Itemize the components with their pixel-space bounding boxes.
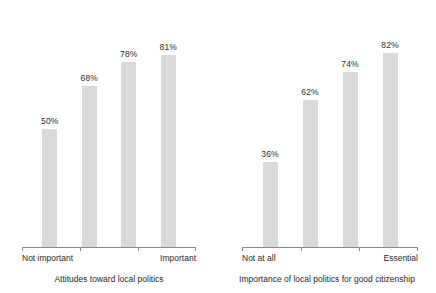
- importance-axis-title: Importance of local politics for good ci…: [218, 274, 436, 285]
- bar-rect: [263, 162, 278, 247]
- attitudes-panel: 50% 68% 78% 81%: [0, 0, 218, 293]
- bar-rect: [121, 62, 136, 247]
- bar-item: 81%: [149, 10, 189, 247]
- bar-item: 74%: [330, 10, 370, 247]
- axis-end-label: Important: [160, 253, 196, 264]
- axis-tick: [242, 247, 243, 251]
- importance-panel: 36% 62% 74% 82%: [218, 0, 436, 293]
- attitudes-x-axis: [22, 247, 196, 248]
- bar-rect: [343, 72, 358, 247]
- axis-tick: [80, 247, 81, 251]
- importance-category-labels: Not at all Essential: [242, 253, 418, 264]
- bar-rect: [161, 55, 176, 247]
- bar-chart-figure: 50% 68% 78% 81%: [0, 0, 436, 293]
- axis-tick: [195, 247, 196, 251]
- attitudes-axis-title: Attitudes toward local politics: [0, 274, 218, 285]
- axis-line: [242, 247, 418, 248]
- bar-item: 50%: [30, 10, 70, 247]
- axis-tick: [417, 247, 418, 251]
- bar-item: 82%: [370, 10, 410, 247]
- axis-end-label: Essential: [384, 253, 419, 264]
- importance-x-axis: [242, 247, 418, 248]
- axis-start-label: Not at all: [242, 253, 276, 264]
- bar-value-label: 82%: [381, 40, 398, 50]
- axis-line: [22, 247, 196, 248]
- bar-item: 78%: [109, 10, 149, 247]
- bar-value-label: 78%: [120, 49, 137, 59]
- bar-item: 62%: [290, 10, 330, 247]
- bar-value-label: 74%: [341, 59, 358, 69]
- importance-bar-group: 36% 62% 74% 82%: [242, 10, 418, 247]
- axis-tick: [301, 247, 302, 251]
- bar-value-label: 81%: [160, 42, 177, 52]
- bar-rect: [303, 100, 318, 247]
- bar-rect: [42, 129, 57, 248]
- axis-start-label: Not important: [22, 253, 73, 264]
- bar-value-label: 68%: [81, 73, 98, 83]
- axis-tick: [138, 247, 139, 251]
- importance-plot-area: 36% 62% 74% 82%: [242, 10, 418, 247]
- bar-value-label: 36%: [261, 149, 278, 159]
- bar-rect: [383, 53, 398, 247]
- bar-value-label: 50%: [41, 116, 58, 126]
- axis-tick: [22, 247, 23, 251]
- bar-item: 36%: [250, 10, 290, 247]
- bar-item: 68%: [70, 10, 110, 247]
- bar-rect: [82, 86, 97, 247]
- axis-tick: [359, 247, 360, 251]
- bar-value-label: 62%: [301, 87, 318, 97]
- attitudes-category-labels: Not important Important: [22, 253, 196, 264]
- attitudes-plot-area: 50% 68% 78% 81%: [22, 10, 196, 247]
- attitudes-bar-group: 50% 68% 78% 81%: [22, 10, 196, 247]
